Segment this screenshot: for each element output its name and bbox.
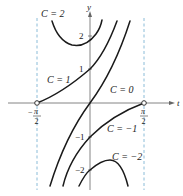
y-axis-label: y xyxy=(86,2,91,12)
y-tick-label-2: 2 xyxy=(79,31,84,41)
curve-c-neg2 xyxy=(79,160,128,186)
label-c0: C = 0 xyxy=(110,84,133,95)
svg-text:2: 2 xyxy=(35,117,39,126)
label-c2: C = 2 xyxy=(41,8,64,19)
y-tick-label-neg1: −1 xyxy=(75,132,85,142)
t-axis-label: t xyxy=(177,98,180,108)
t-axis-arrow-icon xyxy=(169,101,175,105)
curve-c1 xyxy=(37,21,117,103)
curve-c2 xyxy=(52,20,102,45)
open-point-left xyxy=(35,101,40,106)
svg-text:π: π xyxy=(141,107,146,116)
x-tick-label-neg-pi-over-2: − π 2 xyxy=(28,107,41,126)
x-tick-label-pi-over-2: π 2 xyxy=(140,107,148,126)
label-c1: C = 1 xyxy=(47,74,70,85)
label-c-neg1: C = −1 xyxy=(107,123,137,134)
y-tick-label-1: 1 xyxy=(79,64,84,74)
label-c-neg2: C = −2 xyxy=(112,151,142,162)
svg-text:−: − xyxy=(28,108,33,117)
y-tick-label-neg2: −2 xyxy=(75,165,85,175)
open-point-right xyxy=(142,101,147,106)
diagram-canvas: t y 2 1 −1 −2 − π 2 π 2 C = 2 C = 1 C = … xyxy=(0,0,183,196)
svg-text:π: π xyxy=(34,107,39,116)
svg-text:2: 2 xyxy=(142,117,146,126)
